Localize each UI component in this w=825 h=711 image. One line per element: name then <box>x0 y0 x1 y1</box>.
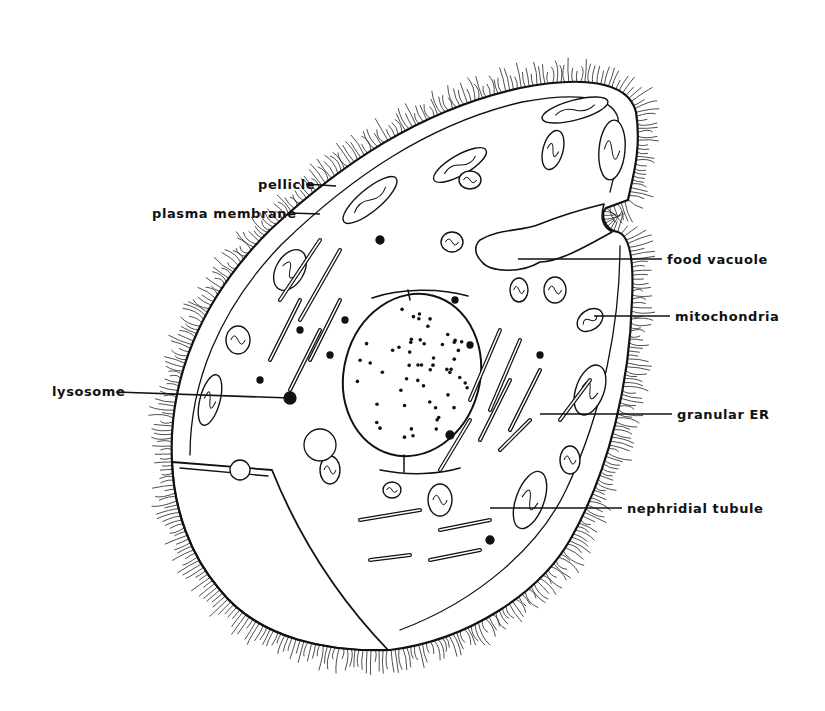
cilium <box>212 272 226 282</box>
cilium <box>222 252 239 265</box>
er-lumen <box>430 550 480 560</box>
cilium <box>632 283 648 285</box>
nucleolus-dot <box>418 338 422 342</box>
cilium <box>627 363 652 366</box>
cilium <box>515 77 518 89</box>
nucleolus-dot <box>418 312 422 316</box>
nucleolus-dot <box>368 361 372 365</box>
cilium <box>620 402 636 405</box>
nucleolus-dot <box>411 434 415 438</box>
nucleolus-dot <box>463 381 467 385</box>
cilium <box>304 642 308 656</box>
cilium <box>290 639 296 659</box>
cilium <box>531 586 545 602</box>
cilium <box>598 479 612 484</box>
cilium <box>628 351 639 352</box>
er-lumen <box>270 300 300 360</box>
cilium <box>155 399 175 403</box>
nucleolus-dot <box>356 380 360 384</box>
cilium <box>623 77 635 93</box>
nucleolus-dot <box>446 393 450 397</box>
er-lumen <box>500 420 530 450</box>
cilium <box>625 375 637 377</box>
cilium <box>577 527 589 533</box>
cilium <box>630 335 640 337</box>
cilium <box>319 646 324 671</box>
cilium <box>414 646 417 660</box>
cilium <box>377 130 385 143</box>
mitochondrion <box>573 304 607 336</box>
nucleolus-dot <box>426 324 430 328</box>
cilium <box>178 334 194 341</box>
cilium <box>623 386 648 391</box>
nucleolus-dot <box>432 356 436 360</box>
mitochondrion <box>538 128 568 172</box>
cilium <box>212 593 223 602</box>
cilium <box>601 71 604 85</box>
cilium <box>632 261 648 263</box>
cilium <box>626 371 647 375</box>
cilium <box>148 415 173 419</box>
cilium <box>631 251 655 255</box>
cilium <box>606 456 623 461</box>
mitochondrion <box>441 232 463 252</box>
cilium <box>293 195 300 204</box>
nucleolus-dot <box>448 371 452 375</box>
cilium <box>416 106 424 122</box>
cilium <box>160 458 172 459</box>
nucleolus-dot <box>400 308 404 312</box>
cilium <box>179 348 189 352</box>
cilium <box>157 441 172 442</box>
cilium <box>154 462 172 463</box>
oral-groove <box>172 462 388 650</box>
cilium <box>164 505 177 508</box>
cilium <box>232 612 243 626</box>
cilium <box>354 649 355 667</box>
cilium <box>632 295 652 296</box>
cilium <box>164 395 177 398</box>
cilium <box>538 66 541 84</box>
cilium <box>203 587 217 599</box>
granule <box>446 431 454 439</box>
cilium <box>186 567 204 578</box>
cilium <box>453 88 460 105</box>
cilium <box>608 449 618 452</box>
cilium <box>637 156 655 158</box>
cilium <box>457 632 464 649</box>
nucleolus-dot <box>431 363 435 367</box>
label-nephridial-tubule: nephridial tubule <box>627 501 764 516</box>
cilium <box>630 330 645 333</box>
cilium <box>199 574 208 580</box>
cilium <box>638 144 648 145</box>
cilium <box>159 476 173 478</box>
cilium <box>616 80 620 89</box>
nucleus <box>325 278 499 473</box>
er-lumen <box>440 520 490 530</box>
cilium <box>395 649 398 672</box>
nucleolus-dot <box>441 343 445 347</box>
cilium <box>366 650 367 673</box>
nucleolus-dot <box>403 435 407 439</box>
cilium <box>637 123 657 126</box>
cilium <box>395 119 402 132</box>
nucleolus-dot <box>458 376 462 380</box>
cilium <box>568 58 569 82</box>
label-lysosome: lysosome <box>52 384 125 399</box>
cilium <box>605 67 610 85</box>
granule <box>297 327 303 333</box>
granule <box>376 236 384 244</box>
er-lumen <box>480 380 510 440</box>
cilium <box>636 159 654 162</box>
cilium <box>162 413 174 415</box>
cilium <box>553 564 570 578</box>
granule <box>304 429 336 461</box>
nucleolus-dot <box>381 370 385 374</box>
cilium <box>189 316 202 322</box>
cilium <box>198 298 211 306</box>
cilium <box>632 307 652 308</box>
cilium <box>589 501 611 510</box>
cilium <box>629 241 653 247</box>
cilium <box>607 220 614 227</box>
cilium <box>634 172 646 174</box>
cilium <box>342 648 344 658</box>
